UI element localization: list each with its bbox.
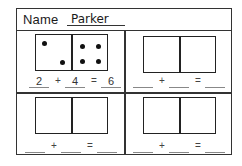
domino [35,34,108,71]
domino-divider [179,37,181,72]
plus-sign: + [159,75,165,86]
name-label: Name [23,12,58,27]
pip-icon [96,44,101,49]
domino-divider [179,98,181,133]
problem-cell-4: + = [125,94,232,155]
addend1-field[interactable] [133,141,153,153]
plus-sign: + [51,140,57,151]
equation-row: + = [25,141,117,155]
name-field[interactable]: Parker [67,11,125,26]
equation-row: 2 + 4 = 6 [25,76,117,90]
plus-sign: + [159,140,165,151]
equation-row: + = [133,141,225,155]
equation-row: + = [133,76,225,90]
pip-icon [80,44,85,49]
equals-sign: = [195,140,201,151]
sum-field[interactable]: 6 [101,76,121,88]
pip-icon [96,59,101,64]
addend1-field[interactable] [25,141,45,153]
pip-icon [60,60,65,65]
name-value: Parker [71,11,109,26]
problem-cell-1: 2 + 4 = 6 [17,31,124,92]
addend1-field[interactable] [133,76,153,88]
addend2-field[interactable]: 4 [65,76,85,88]
domino [35,97,108,134]
addend2-field[interactable] [61,141,81,153]
problem-cell-3: + = [17,94,124,155]
name-header: Name Parker [17,9,231,31]
sum-field[interactable] [205,141,225,153]
pip-icon [42,41,47,46]
domino-divider [71,98,73,133]
domino [143,36,216,73]
worksheet: Name Parker 2 + 4 = 6 + [16,8,232,155]
addend2-field[interactable] [169,76,189,88]
problem-cell-2: + = [125,31,232,92]
pip-icon [80,59,85,64]
equals-sign: = [91,75,97,86]
sum-field[interactable] [97,141,117,153]
equals-sign: = [87,140,93,151]
domino-divider [71,35,73,70]
equals-sign: = [195,75,201,86]
addend2-field[interactable] [169,141,189,153]
plus-sign: + [55,75,61,86]
sum-field[interactable] [205,76,225,88]
addend1-field[interactable]: 2 [29,76,49,88]
domino [143,97,216,134]
